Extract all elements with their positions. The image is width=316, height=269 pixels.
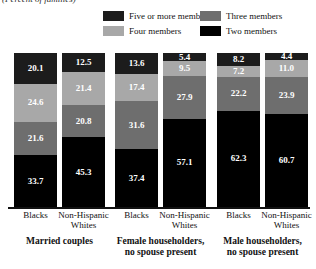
chart-plot-area: 20.124.621.633.712.521.420.845.313.617.4… <box>0 53 316 207</box>
bar-segment[interactable]: 17.4 <box>115 74 158 101</box>
bar-segment[interactable]: 8.2 <box>217 53 260 66</box>
bar-segment[interactable]: 20.1 <box>14 53 57 84</box>
bar-segment[interactable]: 11.0 <box>265 60 308 77</box>
legend-swatch-icon <box>103 26 124 36</box>
bar-segment[interactable]: 4.4 <box>265 53 308 60</box>
chart-legend: Five or more members Three members Four … <box>103 8 316 38</box>
legend-label: Three members <box>226 11 282 21</box>
x-tick-label-line2: Whites <box>54 220 113 230</box>
bar-segment[interactable]: 12.5 <box>62 53 105 72</box>
group-caption-line2: no spouse present <box>203 247 316 258</box>
stacked-bar[interactable]: 13.617.431.637.4 <box>115 53 158 207</box>
bar-segment[interactable]: 23.9 <box>265 77 308 114</box>
legend-label: Five or more members <box>129 11 211 21</box>
legend-item-three-members: Three members <box>200 11 316 21</box>
bar-segment[interactable]: 13.6 <box>115 53 158 74</box>
x-tick-label: Non-HispanicWhites <box>257 210 316 230</box>
stacked-bar[interactable]: 8.27.222.262.3 <box>217 53 260 207</box>
bar-group: 20.124.621.633.712.521.420.845.3 <box>14 53 105 207</box>
bar-segment[interactable]: 31.6 <box>115 101 158 150</box>
stacked-bar[interactable]: 4.411.023.960.7 <box>265 53 308 207</box>
bar-segment[interactable]: 22.2 <box>217 77 260 111</box>
bar-group: 8.27.222.262.34.411.023.960.7 <box>217 53 308 207</box>
bar-segment[interactable]: 60.7 <box>265 114 308 207</box>
legend-swatch-icon <box>200 26 221 36</box>
legend-swatch-icon <box>103 11 124 21</box>
bar-group: 13.617.431.637.45.49.527.957.1 <box>115 53 206 207</box>
group-caption: Male householders,no spouse present <box>203 236 316 258</box>
x-tick-label: Non-HispanicWhites <box>54 210 113 230</box>
bar-segment[interactable]: 20.8 <box>62 105 105 137</box>
legend-swatch-icon <box>200 11 221 21</box>
bar-segment[interactable]: 24.6 <box>14 84 57 122</box>
bar-segment[interactable]: 37.4 <box>115 149 158 207</box>
legend-label: Two members <box>226 26 277 36</box>
stacked-bar[interactable]: 20.124.621.633.7 <box>14 53 57 207</box>
legend-label: Four members <box>129 26 181 36</box>
bar-segment[interactable]: 62.3 <box>217 111 260 207</box>
x-axis-line <box>8 207 310 209</box>
bar-segment[interactable]: 21.4 <box>62 72 105 105</box>
bar-segment[interactable]: 5.4 <box>163 53 206 61</box>
bar-segment[interactable]: 33.7 <box>14 155 57 207</box>
chart-subtitle: (Percent of families) <box>2 0 76 4</box>
legend-item-four-members: Four members <box>103 26 200 36</box>
x-tick-label: Non-HispanicWhites <box>155 210 214 230</box>
bar-segment[interactable]: 27.9 <box>163 76 206 119</box>
stacked-bar[interactable]: 5.49.527.957.1 <box>163 53 206 207</box>
x-tick-label-line2: Whites <box>257 220 316 230</box>
x-tick-label-line2: Whites <box>155 220 214 230</box>
bar-segment[interactable]: 21.6 <box>14 122 57 155</box>
bar-segment[interactable]: 57.1 <box>163 119 206 207</box>
legend-item-two-members: Two members <box>200 26 316 36</box>
legend-item-five-or-more: Five or more members <box>103 11 200 21</box>
bar-segment[interactable]: 9.5 <box>163 61 206 76</box>
stacked-bar[interactable]: 12.521.420.845.3 <box>62 53 105 207</box>
bar-segment[interactable]: 45.3 <box>62 137 105 207</box>
bar-segment[interactable]: 7.2 <box>217 66 260 77</box>
